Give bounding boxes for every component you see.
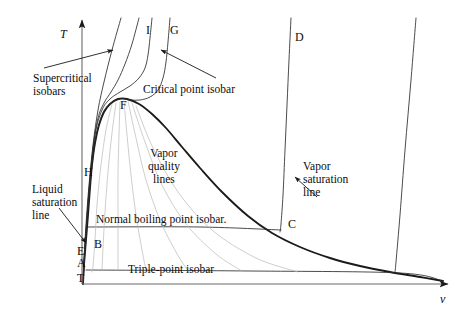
arrow-critical-point-isobar [161, 50, 216, 78]
annotation-normal-boiling-point-isobar: Normal boiling point isobar. [96, 213, 226, 226]
point-label-i: I [146, 24, 150, 37]
curve-vapor-quality-line-6 [132, 103, 242, 271]
point-label-g: G [170, 24, 179, 37]
annotation-triple-point-isobar: Triple-point isobar [128, 263, 214, 276]
curve-saturation-dome [83, 98, 443, 284]
point-label-h: H [84, 166, 93, 179]
curve-vapor-quality-line-5 [128, 101, 188, 271]
annotation-line: Critical point isobar [143, 83, 235, 96]
annotation-line: Vapor [303, 160, 348, 173]
annotation-line: line [303, 186, 348, 199]
annotation-line: Vapor [148, 147, 180, 160]
curve-normal-boiling-point-isobar-line [88, 227, 281, 230]
annotation-supercritical-isobars: Supercriticalisobars [33, 72, 92, 98]
annotation-line: Liquid [32, 183, 77, 196]
annotation-vapor-quality-lines: Vaporqualitylines [148, 147, 180, 186]
annotation-line: quality [148, 160, 180, 173]
point-label-d: D [295, 31, 304, 44]
curve-vapor-quality-line-2 [102, 103, 116, 270]
curve-isobar-D [280, 18, 291, 232]
phase-diagram-plot [0, 0, 458, 323]
axes-layer [82, 20, 448, 284]
annotation-line: line [32, 209, 77, 222]
point-label-b: B [94, 238, 102, 251]
x-axis-label: v [440, 293, 445, 306]
annotation-liquid-saturation-line: Liquidsaturationline [32, 183, 77, 222]
point-label-t: T [77, 272, 84, 285]
annotation-line: lines [148, 173, 180, 186]
annotation-line: Triple-point isobar [128, 263, 214, 276]
annotation-line: saturation [32, 196, 77, 209]
point-label-a: A [77, 257, 86, 270]
curve-vapor-quality-line-4 [124, 101, 146, 270]
curve-supercritical-isobar-2 [83, 18, 139, 284]
curve-layer [83, 18, 443, 284]
point-label-f: F [120, 99, 127, 112]
point-label-c: C [288, 218, 296, 231]
annotation-line: saturation [303, 173, 348, 186]
annotation-line: Normal boiling point isobar. [96, 213, 226, 226]
annotation-line: isobars [33, 85, 92, 98]
annotation-vapor-saturation-line: Vaporsaturationline [303, 160, 348, 199]
y-axis-label: T [60, 28, 67, 41]
annotation-critical-point-isobar: Critical point isobar [143, 83, 235, 96]
curve-vapor-quality-line-7 [136, 106, 298, 272]
annotation-line: Supercritical [33, 72, 92, 85]
curve-far-right-isobar [395, 18, 416, 272]
curve-vapor-quality-line-3 [118, 102, 120, 270]
phase-diagram-figure: T v IGDFHCBEAT SupercriticalisobarsCriti… [0, 0, 458, 323]
arrow-supercritical-isobars [44, 50, 113, 68]
